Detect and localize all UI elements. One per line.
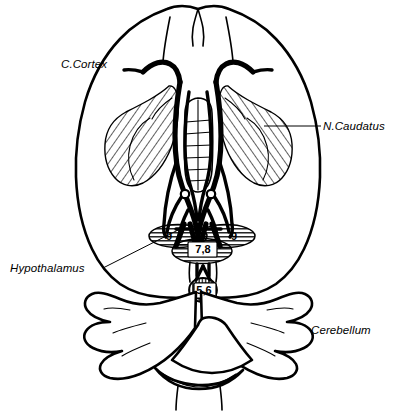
label-cerebellum: Cerebellum — [311, 324, 371, 336]
brain-diagram-figure: C.Cortex N.Caudatus Hypothalamus Cerebel… — [0, 0, 397, 411]
region-label-78: 7,8 — [195, 243, 210, 255]
region-label-9-right: 9 — [231, 230, 237, 242]
label-hypothalamus: Hypothalamus — [10, 262, 85, 274]
brain-diagram-svg: C.Cortex N.Caudatus Hypothalamus Cerebel… — [0, 0, 397, 411]
region-label-56: 5,6 — [196, 284, 211, 296]
region-label-9-left: 9 — [166, 230, 172, 242]
cerebellum-body — [84, 292, 313, 389]
label-n-caudatus: N.Caudatus — [323, 120, 385, 132]
label-c-cortex: C.Cortex — [61, 58, 108, 70]
